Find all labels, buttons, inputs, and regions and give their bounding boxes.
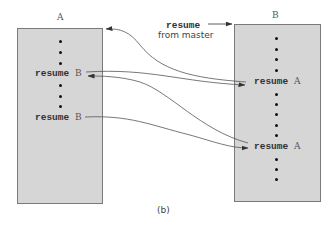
control-flow-arrows — [0, 0, 332, 227]
arrow-a2-to-b2 — [85, 117, 248, 148]
arrow-b-to-a-start — [106, 29, 246, 82]
arrow-a1-to-b1 — [86, 71, 245, 85]
figure-caption: (b) — [157, 205, 170, 215]
arrow-b2-to-a1 — [88, 76, 248, 143]
